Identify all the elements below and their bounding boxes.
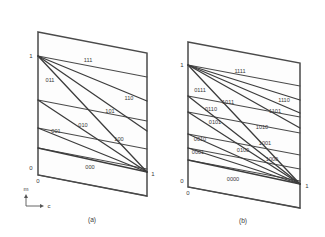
panel-a-region-000: 000 [85,164,94,170]
panel-a-region-111: 111 [84,57,93,63]
panel-b-region-1111: 1111 [234,68,245,74]
axis-c-arrow-icon [40,204,44,208]
panel-b-region-1000: 1000 [266,156,278,162]
panel-a-region-101: 101 [105,108,114,114]
panel-b-region-1011: 1011 [222,99,234,105]
panel-b-region-1110: 1110 [278,97,290,103]
panel-b-region-0100: 0100 [237,147,249,153]
panel-b-region-1101: 1101 [269,108,281,114]
panel-a-label-left-bottom: 0 [29,165,33,171]
panel-b-region-1010: 1010 [256,124,268,130]
panel-b-region-0110: 0110 [205,106,217,112]
panel-a-region-100: 100 [114,136,123,142]
axis-m-label: m [24,186,29,192]
panel-a-region-001: 001 [51,128,60,134]
panel-b: 1 0 0 1 1111 0111 1110 1011 1101 0110 10… [180,42,309,225]
panel-b-caption: (b) [239,217,247,225]
panel-a: 1 0 0 1 111 011 110 101 010 001 100 000 … [24,32,156,224]
panel-b-region-0010: 0010 [194,136,206,142]
panel-a-region-110: 110 [125,95,134,101]
panel-b-label-bottom-left: 0 [186,190,190,196]
panel-a-label-left-top: 1 [29,53,33,59]
figure-container: 1 0 0 1 111 011 110 101 010 001 100 000 … [0,0,325,237]
panel-b-label-left-top: 1 [180,62,184,68]
panel-b-region-1001: 1001 [259,140,271,146]
panel-b-region-0101: 0101 [209,119,221,125]
panel-a-caption: (a) [88,216,96,224]
panel-a-region-011: 011 [46,77,55,83]
figure-svg: 1 0 0 1 111 011 110 101 010 001 100 000 … [0,0,325,237]
axis-c-label: c [48,203,51,209]
panel-a-label-bottom-left: 0 [36,178,40,184]
panel-b-label-left-bottom: 0 [180,178,184,184]
panel-a-label-bottom-right: 1 [151,171,155,177]
axis-m-arrow-icon [24,194,28,198]
panel-b-region-0111: 0111 [194,87,206,93]
panel-b-region-0001: 0001 [192,149,204,155]
panel-a-axes-marker: m c [24,186,51,209]
panel-a-region-010: 010 [78,122,87,128]
panel-b-label-bottom-right: 1 [305,183,309,189]
panel-b-region-0000: 0000 [227,176,239,182]
